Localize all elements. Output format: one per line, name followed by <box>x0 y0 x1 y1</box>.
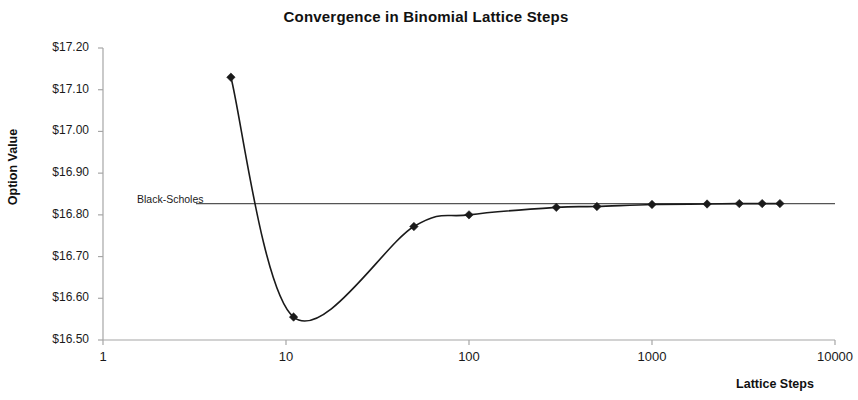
data-point-marker <box>227 73 235 81</box>
data-point-marker <box>410 222 418 230</box>
data-point-marker <box>552 203 560 211</box>
x-axis-ticks <box>103 340 835 345</box>
data-series-group <box>227 73 784 321</box>
data-point-marker <box>648 200 656 208</box>
data-point-marker <box>703 200 711 208</box>
data-point-marker <box>465 211 473 219</box>
series-line <box>231 77 780 321</box>
data-point-marker <box>758 199 766 207</box>
data-point-marker <box>735 199 743 207</box>
y-axis-ticks <box>98 48 103 340</box>
axes <box>98 48 835 345</box>
data-point-marker <box>776 199 784 207</box>
